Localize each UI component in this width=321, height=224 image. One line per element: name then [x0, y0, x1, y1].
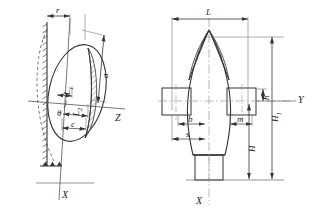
body-ellipse-outline: [39, 39, 114, 147]
dim-r: [47, 14, 85, 40]
left-lug: [162, 88, 191, 115]
right-view-group: [158, 17, 296, 205]
label-dim-s: s: [186, 130, 190, 139]
axis-label-z: Z: [115, 113, 121, 123]
label-dim-L: L: [206, 8, 211, 17]
ground-supports: [40, 162, 62, 167]
label-dim-c: c: [71, 120, 75, 129]
label-dim-L2: L2: [72, 108, 83, 116]
hatched-crescent-region: [85, 48, 97, 138]
label-dim-H: H: [248, 146, 257, 153]
axis-label-y: Y: [298, 95, 304, 105]
label-dim-a: a: [101, 74, 110, 79]
technical-drawing-canvas: r a L1 L2 c θ Z X L b s m h H1 H Y X: [0, 0, 321, 224]
nose-inner-arc-right: [209, 30, 229, 80]
nose-inner-arc-left: [189, 30, 209, 80]
label-dim-H1: H1: [271, 112, 282, 122]
label-dim-m: m: [237, 115, 244, 124]
label-dim-h: h: [262, 96, 271, 101]
axis-label-x-right: X: [196, 196, 202, 206]
label-dim-L1: L1: [63, 87, 74, 95]
label-angle-theta: θ: [57, 109, 61, 118]
label-dim-r: r: [56, 6, 60, 15]
label-dim-b: b: [188, 115, 193, 124]
right-lug: [227, 88, 256, 115]
wall-support: [43, 22, 48, 166]
axis-label-x-left: X: [62, 190, 68, 200]
